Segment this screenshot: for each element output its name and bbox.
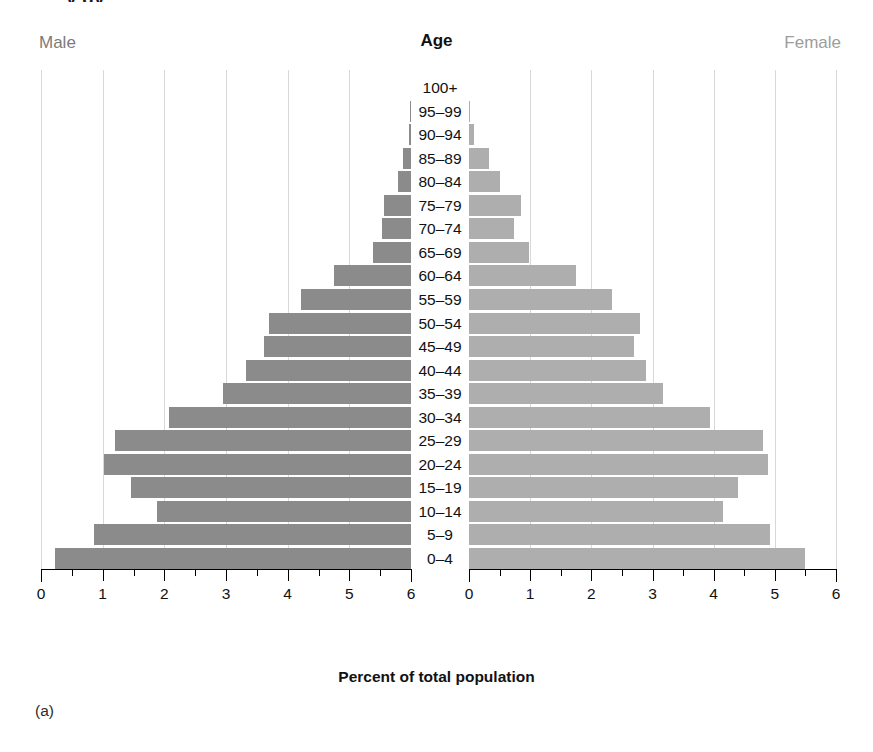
male-bar (264, 336, 411, 357)
male-bar (382, 218, 411, 239)
male-bar (301, 289, 411, 310)
age-band-label: 30–34 (411, 407, 469, 428)
male-bar-row (41, 454, 411, 475)
axis-tick-minor (257, 569, 258, 576)
axis-tick-major (103, 569, 104, 581)
female-bar (469, 430, 763, 451)
female-bar-row (469, 430, 836, 451)
axis-tick-minor (319, 569, 320, 576)
male-bar (223, 383, 411, 404)
male-bar (131, 477, 411, 498)
female-bar-row (469, 548, 836, 569)
axis-tick-label: 6 (398, 585, 424, 603)
female-bar-row (469, 265, 836, 286)
female-bar (469, 171, 500, 192)
axis-tick-label: 1 (517, 585, 543, 603)
male-bar-row (41, 242, 411, 263)
male-bar-row (41, 195, 411, 216)
axis-tick-label: 1 (90, 585, 116, 603)
age-band-label: 40–44 (411, 360, 469, 381)
axis-tick-label: 5 (762, 585, 788, 603)
male-bar-row (41, 501, 411, 522)
male-bar (398, 171, 411, 192)
female-bar (469, 148, 489, 169)
age-band-label: 75–79 (411, 195, 469, 216)
axis-tick-major (164, 569, 165, 581)
axis-end-cap (836, 569, 837, 582)
age-band-label: 80–84 (411, 171, 469, 192)
axis-tick-major (226, 569, 227, 581)
axis-tick-minor (134, 569, 135, 576)
male-bar-row (41, 430, 411, 451)
gridline (836, 70, 837, 570)
axis-tick-major (591, 569, 592, 581)
female-bar-row (469, 501, 836, 522)
age-band-label: 5–9 (411, 524, 469, 545)
age-band-label: 20–24 (411, 454, 469, 475)
female-bar (469, 195, 521, 216)
male-bar (246, 360, 411, 381)
female-bar-row (469, 313, 836, 334)
axis-tick-major (530, 569, 531, 581)
male-bar-row (41, 124, 411, 145)
male-bar (104, 454, 411, 475)
female-bar-row (469, 218, 836, 239)
female-bar (469, 313, 640, 334)
male-bar-row (41, 383, 411, 404)
age-label-column: 100+95–9990–9485–8980–8475–7970–7465–696… (411, 70, 469, 570)
age-band-label: 0–4 (411, 548, 469, 569)
female-bar (469, 336, 634, 357)
male-bar (55, 548, 411, 569)
female-bar (469, 101, 470, 122)
age-band-label: 65–69 (411, 242, 469, 263)
female-header-label: Female (784, 33, 841, 53)
female-bar (469, 501, 723, 522)
female-bar (469, 218, 514, 239)
female-bar-row (469, 454, 836, 475)
female-bar-row (469, 336, 836, 357)
female-bar (469, 477, 738, 498)
male-bars (41, 70, 411, 570)
figure-caption: (a) (35, 702, 54, 720)
male-bar-row (41, 313, 411, 334)
female-bar (469, 124, 474, 145)
male-bar (334, 265, 411, 286)
female-bar-row (469, 148, 836, 169)
male-bar (169, 407, 411, 428)
male-bar-row (41, 477, 411, 498)
female-bar (469, 383, 663, 404)
axis-tick-minor (72, 569, 73, 576)
male-bar (384, 195, 411, 216)
age-band-label: 55–59 (411, 289, 469, 310)
axis-tick-label: 3 (640, 585, 666, 603)
female-bar (469, 548, 805, 569)
male-bar-row (41, 148, 411, 169)
axis-tick-label: 2 (151, 585, 177, 603)
male-bar-row (41, 101, 411, 122)
age-band-label: 95–99 (411, 101, 469, 122)
axis-tick-label: 2 (578, 585, 604, 603)
age-band-label: 60–64 (411, 265, 469, 286)
female-bars (469, 70, 836, 570)
age-band-label: 50–54 (411, 313, 469, 334)
male-bar-row (41, 524, 411, 545)
female-bar-row (469, 195, 836, 216)
male-bar (157, 501, 411, 522)
age-band-label: 85–89 (411, 148, 469, 169)
axis-tick-label: 3 (213, 585, 239, 603)
axis-tick-label: 0 (28, 585, 54, 603)
axis-tick-major (288, 569, 289, 581)
female-bar-row (469, 360, 836, 381)
axis-tick-major (714, 569, 715, 581)
female-bar-row (469, 124, 836, 145)
age-band-label: 45–49 (411, 336, 469, 357)
axis-tick-major (653, 569, 654, 581)
female-bar (469, 524, 770, 545)
male-bar-row (41, 336, 411, 357)
male-bar-row (41, 77, 411, 98)
clipped-top-text: y gy (66, 0, 105, 2)
female-bar-row (469, 524, 836, 545)
female-bar-row (469, 171, 836, 192)
axis-tick-minor (744, 569, 745, 576)
female-bar (469, 360, 646, 381)
